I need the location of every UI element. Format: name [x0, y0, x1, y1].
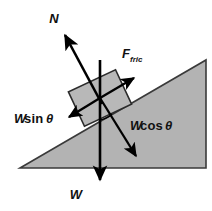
- friction-force-label-subscript: fric: [130, 55, 143, 64]
- weight-perpendicular-label-function: cos: [140, 118, 163, 133]
- inclined-plane-force-diagram: N F fric W sin θ W cos θ W: [0, 0, 212, 211]
- weight-parallel-label-function: sin: [24, 111, 43, 126]
- weight-perpendicular-label-symbol: θ: [165, 118, 172, 133]
- friction-force-label: F fric: [122, 46, 143, 64]
- weight-perpendicular-label: W cos θ: [130, 118, 172, 133]
- weight-parallel-label-symbol: θ: [46, 111, 53, 126]
- weight-parallel-label: W sin θ: [14, 111, 53, 126]
- weight-label: W: [70, 187, 84, 202]
- normal-force-label: N: [49, 11, 59, 26]
- free-body-diagram: N F fric W sin θ W cos θ W: [0, 0, 212, 211]
